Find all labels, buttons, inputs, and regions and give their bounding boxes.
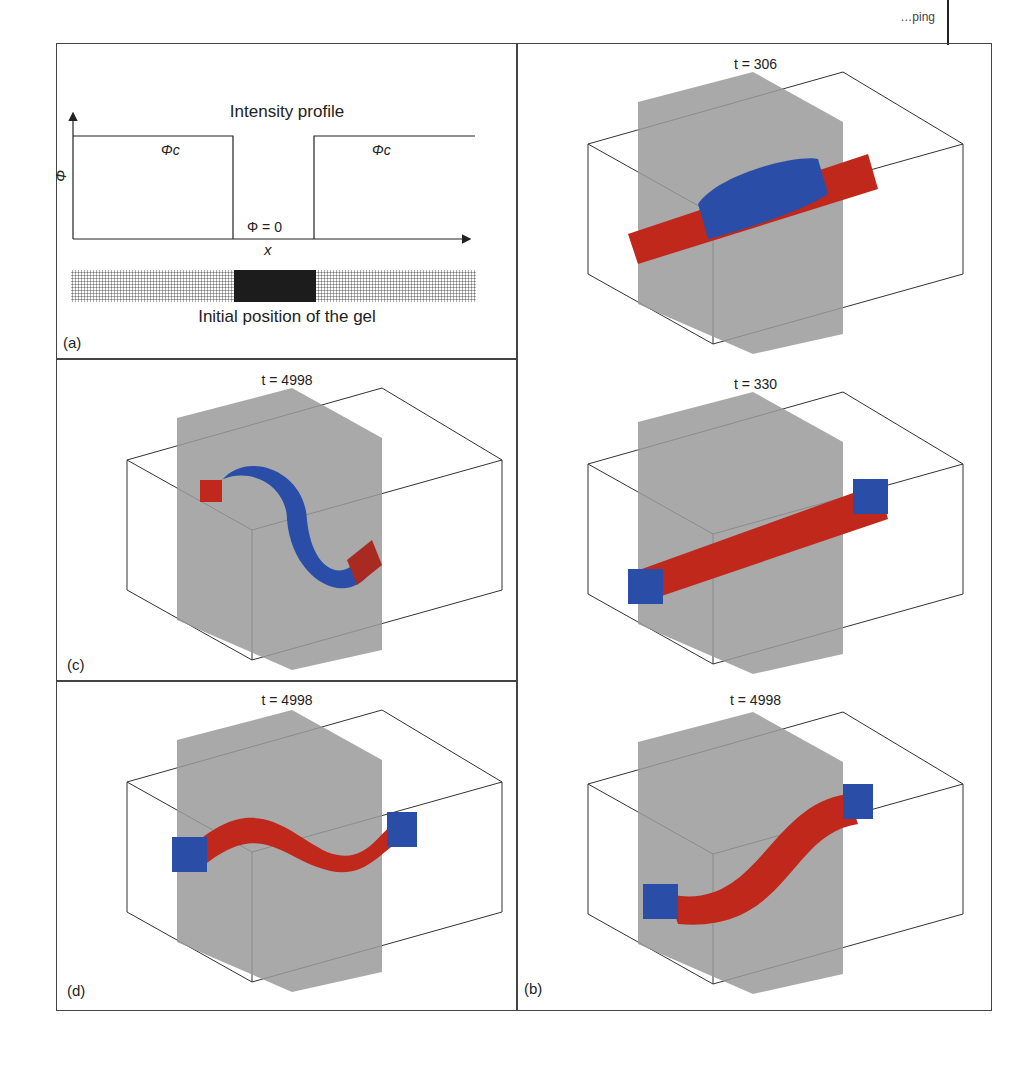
plot-3d-d bbox=[57, 682, 517, 1012]
panel-label-c: (c) bbox=[67, 656, 85, 673]
panel-c: t = 4998 (c) bbox=[57, 360, 517, 680]
intensity-title: Intensity profile bbox=[57, 102, 517, 122]
running-header: …ping bbox=[900, 10, 935, 24]
x-axis-label: x bbox=[264, 241, 272, 258]
plot-3d-c bbox=[57, 360, 517, 680]
panel-b-top-title: t = 306 bbox=[518, 56, 993, 72]
panel-b-t330: t = 330 bbox=[518, 364, 993, 684]
gel-caption: Initial position of the gel bbox=[57, 307, 517, 327]
header-rule bbox=[947, 0, 949, 45]
figure-frame: Intensity profile Φ Φc Φc Φ = 0 x Initia… bbox=[56, 43, 992, 1011]
panel-label-b: (b) bbox=[524, 980, 542, 997]
panel-b-bot-title: t = 4998 bbox=[518, 692, 993, 708]
panel-b-mid-title: t = 330 bbox=[518, 376, 993, 392]
panel-a: Intensity profile Φ Φc Φc Φ = 0 x Initia… bbox=[57, 44, 517, 358]
phi-c-left: Φc bbox=[161, 142, 180, 158]
panel-b-t4998: t = 4998 (b) bbox=[518, 684, 993, 1012]
panel-label-a: (a) bbox=[63, 334, 81, 351]
panel-b-t306: t = 306 bbox=[518, 44, 993, 364]
panel-c-title: t = 4998 bbox=[57, 372, 517, 388]
phi-zero-label: Φ = 0 bbox=[247, 219, 282, 235]
phi-c-right: Φc bbox=[372, 142, 391, 158]
panel-label-d: (d) bbox=[67, 982, 85, 999]
phi-axis-label: Φ bbox=[53, 170, 69, 182]
panel-d: t = 4998 (d) bbox=[57, 682, 517, 1012]
panel-d-title: t = 4998 bbox=[57, 692, 517, 708]
